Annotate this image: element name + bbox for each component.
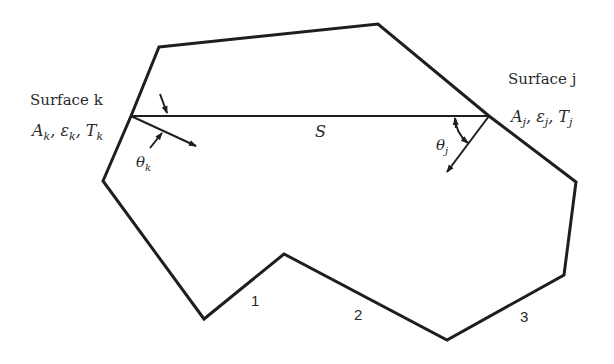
theta-j-arrow-top (455, 118, 456, 128)
wall-label-3: 3 (520, 308, 528, 325)
surface-k-normal-arrow (131, 116, 196, 146)
surface-k-properties: Ak, εk, Tk (30, 121, 104, 143)
theta-k-arrow-upper (160, 94, 167, 113)
surface-k-title: Surface k (30, 91, 104, 109)
surface-j-title: Surface j (508, 70, 576, 88)
surface-j-properties: Aj, εj, Tj (509, 107, 573, 129)
theta-j-label: θj (436, 136, 448, 156)
enclosure-outline (103, 24, 576, 340)
enclosure-diagram: Surface k Ak, εk, Tk θk Surface j Aj, εj… (0, 0, 614, 364)
theta-j-arrow-bottom (462, 138, 468, 143)
wall-label-2: 2 (354, 306, 362, 323)
theta-j-arc (455, 118, 467, 142)
wall-label-1: 1 (251, 292, 259, 309)
path-label-s: S (315, 122, 326, 141)
surface-j-normal-arrow (447, 116, 489, 172)
theta-k-label: θk (136, 153, 151, 173)
theta-k-arrow-lower (150, 133, 162, 148)
